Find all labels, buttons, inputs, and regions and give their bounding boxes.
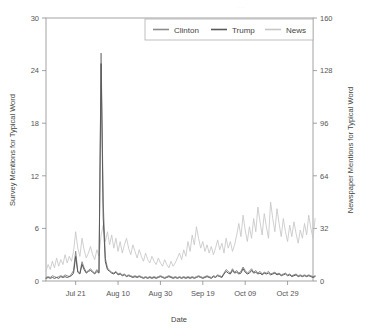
left-tick-label: 6 <box>35 224 39 233</box>
figure-background <box>0 0 367 336</box>
bottom-tick-label: Jul 21 <box>66 289 86 298</box>
left-tick-label: 18 <box>31 119 39 128</box>
right-tick-label: 32 <box>320 224 328 233</box>
bottom-axis-title: Date <box>171 315 187 324</box>
bottom-tick-label: Oct 09 <box>234 289 256 298</box>
chart-legend[interactable]: ClintonTrumpNews <box>145 19 313 40</box>
bottom-tick-label: Aug 30 <box>149 289 173 298</box>
left-tick-label: 24 <box>31 66 39 75</box>
ghost-artifact-text: . . . <box>238 3 245 9</box>
bottom-tick-label: Sep 19 <box>191 289 215 298</box>
bottom-tick-label: Aug 10 <box>106 289 130 298</box>
chart-figure: . . . 0612182430 0326496128160 Jul 21Aug… <box>0 0 367 336</box>
bottom-tick-label: Oct 29 <box>277 289 299 298</box>
left-axis-title: Survey Mentions for Typical Word <box>8 94 17 206</box>
legend-label-trump[interactable]: Trump <box>232 26 255 35</box>
right-tick-label: 64 <box>320 172 328 181</box>
left-tick-label: 12 <box>31 172 39 181</box>
right-tick-label: 96 <box>320 119 328 128</box>
left-tick-label: 30 <box>31 14 39 23</box>
left-tick-label: 0 <box>35 277 39 286</box>
right-tick-label: 160 <box>320 14 333 23</box>
right-tick-label: 128 <box>320 66 333 75</box>
right-tick-label: 0 <box>320 277 324 286</box>
dual-axis-line-chart: . . . 0612182430 0326496128160 Jul 21Aug… <box>0 0 367 336</box>
legend-label-clinton[interactable]: Clinton <box>174 26 199 35</box>
right-axis-title: Newspaper Mentions for Typical Word <box>346 87 355 213</box>
legend-label-news[interactable]: News <box>286 26 306 35</box>
